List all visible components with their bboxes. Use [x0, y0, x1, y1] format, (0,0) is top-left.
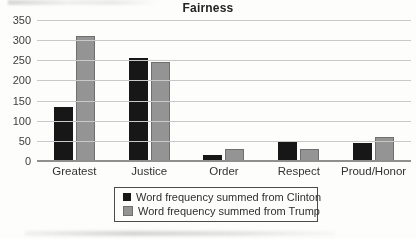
legend-swatch-clinton-icon	[123, 193, 131, 201]
scan-artifact-bottom	[25, 231, 335, 236]
x-axis-line	[37, 160, 411, 162]
bar-clinton-justice	[129, 58, 148, 161]
y-tick-label-50: 50	[2, 135, 31, 147]
bar-clinton-greatest	[54, 107, 73, 161]
legend-item-clinton: Word frequency summed from Clinton	[123, 191, 311, 203]
gridline-200	[37, 80, 411, 81]
bar-clinton-respect	[278, 141, 297, 161]
legend-label-trump: Word frequency summed from Trump	[138, 205, 320, 217]
plot-area	[37, 20, 411, 161]
scanned-bar-chart-fairness: Fairness GreatestJusticeOrderRespectProu…	[0, 0, 416, 239]
bar-group-justice	[112, 20, 187, 161]
bar-group-greatest	[37, 20, 112, 161]
gridline-100	[37, 121, 411, 122]
gridline-300	[37, 40, 411, 41]
y-tick-label-0: 0	[2, 155, 31, 167]
bar-groups	[37, 20, 411, 161]
y-tick-label-150: 150	[2, 95, 31, 107]
chart-title: Fairness	[0, 1, 416, 15]
legend-swatch-trump-icon	[123, 206, 133, 216]
y-tick-label-100: 100	[2, 115, 31, 127]
legend-item-trump: Word frequency summed from Trump	[123, 205, 311, 217]
bar-group-respect	[261, 20, 336, 161]
bar-clinton-proud-honor	[353, 143, 372, 161]
category-label-respect: Respect	[261, 165, 336, 177]
gridline-150	[37, 101, 411, 102]
bar-group-proud-honor	[336, 20, 411, 161]
category-label-justice: Justice	[112, 165, 187, 177]
y-tick-label-250: 250	[2, 54, 31, 66]
gridline-350	[37, 20, 411, 21]
gridline-250	[37, 60, 411, 61]
y-tick-label-300: 300	[2, 34, 31, 46]
category-label-greatest: Greatest	[37, 165, 112, 177]
y-tick-label-200: 200	[2, 74, 31, 86]
bar-trump-justice	[151, 62, 170, 161]
bar-group-order	[187, 20, 262, 161]
gridline-50	[37, 141, 411, 142]
category-label-order: Order	[187, 165, 262, 177]
legend-box: Word frequency summed from ClintonWord f…	[114, 187, 318, 222]
category-label-proud-honor: Proud/Honor	[336, 165, 411, 177]
x-axis-category-labels: GreatestJusticeOrderRespectProud/Honor	[37, 165, 411, 177]
legend-label-clinton: Word frequency summed from Clinton	[136, 191, 321, 203]
y-tick-label-350: 350	[2, 14, 31, 26]
bar-trump-greatest	[76, 36, 95, 161]
